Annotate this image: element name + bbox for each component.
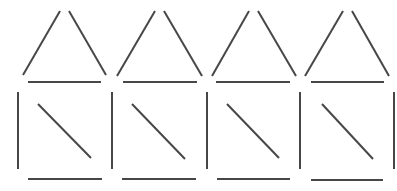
- diagonal-line: [38, 104, 91, 158]
- right-side-line: [352, 11, 389, 76]
- diagram-canvas: [0, 0, 397, 191]
- triangle-shape: [23, 11, 106, 82]
- shapes-diagram: [0, 0, 397, 191]
- left-side-line: [212, 11, 249, 76]
- left-side-line: [117, 11, 155, 76]
- square-row: [18, 92, 394, 180]
- triangle-shape: [212, 11, 296, 82]
- right-side-line: [69, 11, 106, 75]
- triangle-row: [23, 11, 389, 82]
- triangle-shape: [305, 11, 389, 82]
- left-side-line: [305, 11, 343, 76]
- right-side-line: [258, 11, 296, 76]
- left-side-line: [23, 11, 60, 75]
- triangle-shape: [117, 11, 202, 82]
- diagonal-line: [322, 104, 373, 159]
- right-side-line: [164, 11, 202, 76]
- diagonal-line: [227, 104, 279, 158]
- square-with-diagonal-shape: [207, 92, 290, 179]
- square-with-diagonal-shape: [300, 92, 394, 180]
- square-with-diagonal-shape: [18, 92, 102, 179]
- square-with-diagonal-shape: [112, 92, 196, 179]
- diagonal-line: [132, 104, 185, 159]
